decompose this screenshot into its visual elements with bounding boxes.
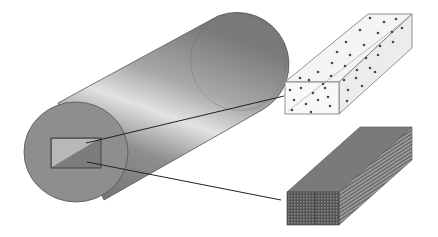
particle-dot <box>369 67 372 70</box>
particle-dot <box>377 54 380 57</box>
particle-dot <box>305 103 308 106</box>
particle-prism <box>285 14 412 114</box>
particle-dot <box>391 31 394 34</box>
particle-dot <box>359 29 362 32</box>
particle-dot <box>392 41 395 44</box>
particle-dot <box>299 77 302 80</box>
particle-dot <box>327 96 330 99</box>
cylinder <box>24 0 303 202</box>
particle-dot <box>343 79 346 82</box>
particle-dot <box>322 83 325 86</box>
particle-dot <box>401 27 404 30</box>
particle-dot <box>317 71 320 74</box>
particle-dot <box>363 44 366 47</box>
particle-dot <box>365 57 368 60</box>
particle-dot <box>289 89 292 92</box>
particle-dot <box>349 54 352 57</box>
particle-dot <box>374 71 377 74</box>
particle-dot <box>379 45 382 48</box>
particle-dot <box>377 32 380 35</box>
layered-prism <box>287 127 412 225</box>
particle-dot <box>356 69 359 72</box>
particle-dot <box>395 18 398 21</box>
particle-dot <box>330 75 333 78</box>
fiber-diagram <box>0 0 438 237</box>
particle-dot <box>344 65 347 68</box>
particle-dot <box>331 62 334 65</box>
particle-dot <box>293 99 296 102</box>
particle-dot <box>383 21 386 24</box>
particle-prism-front <box>285 82 339 114</box>
particle-dot <box>336 51 339 54</box>
particle-dot <box>346 100 349 103</box>
particle-dot <box>361 85 364 88</box>
particle-dot <box>308 79 311 82</box>
particle-dot <box>310 111 313 114</box>
particle-dot <box>347 89 350 92</box>
particle-dot <box>329 105 332 108</box>
particle-dot <box>300 87 303 90</box>
particle-dot <box>324 87 327 90</box>
particle-dot <box>291 109 294 112</box>
particle-dot <box>355 77 358 80</box>
particle-dot <box>317 99 320 102</box>
particle-dot <box>312 92 315 95</box>
layered-prism-front <box>287 192 339 225</box>
particle-dot <box>369 17 372 20</box>
particle-dot <box>345 41 348 44</box>
